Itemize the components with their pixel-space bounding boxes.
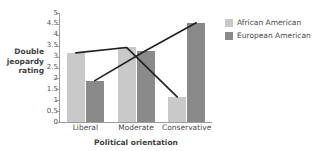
bar: [168, 97, 186, 122]
legend-swatch-icon: [225, 32, 233, 40]
x-axis-tick-label: Conservative: [157, 124, 217, 132]
y-axis-line: [59, 13, 60, 122]
bar: [67, 53, 85, 122]
x-axis-title: Political orientation: [60, 138, 212, 147]
chart-legend: African AmericanEuropean American: [225, 17, 311, 43]
legend-item: European American: [225, 30, 311, 41]
plot-area: [60, 13, 212, 122]
bar: [118, 47, 136, 122]
legend-label: African American: [237, 19, 301, 27]
legend-label: European American: [237, 32, 311, 40]
double-jeopardy-bar-chart: Double jeopardy rating 00.511.522.533.54…: [0, 0, 315, 151]
legend-swatch-icon: [225, 19, 233, 27]
bar: [86, 81, 104, 122]
y-axis-title: Double jeopardy rating: [0, 47, 44, 76]
bar: [137, 51, 155, 122]
bar: [187, 23, 205, 122]
y-axis-title-line-2: jeopardy: [0, 57, 44, 67]
y-axis-title-line-1: Double: [0, 47, 44, 57]
legend-item: African American: [225, 17, 311, 28]
y-axis-title-line-3: rating: [0, 66, 44, 76]
